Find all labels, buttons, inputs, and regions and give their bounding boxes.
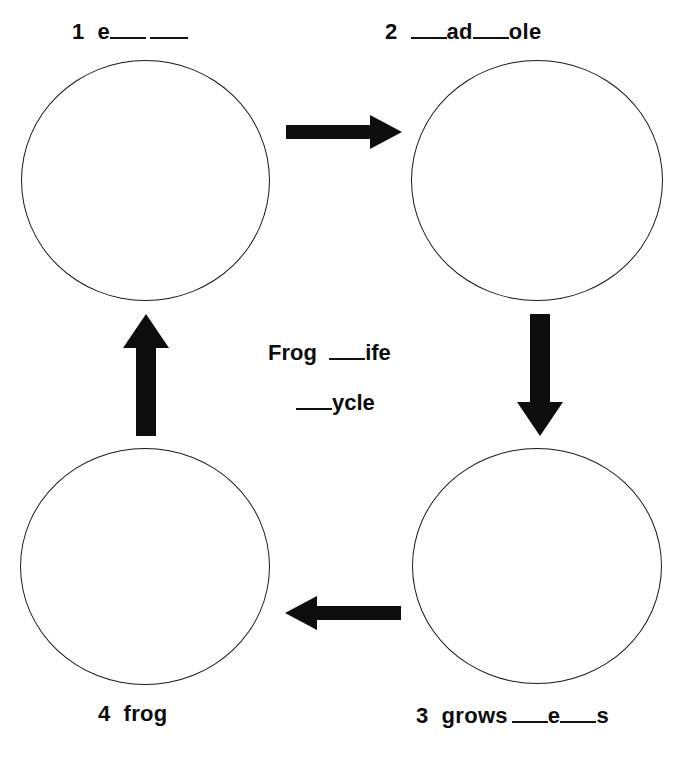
stage-1-drawing-circle[interactable] xyxy=(21,60,270,301)
stage-1-blank-2[interactable] xyxy=(150,19,188,39)
stage-1-number: 1 xyxy=(72,19,85,44)
stage-3-middle-text: e xyxy=(548,703,561,728)
stage-3-word: grows xyxy=(442,703,508,728)
stage-2-label: 2adole xyxy=(385,19,542,43)
stage-3-blank-1[interactable] xyxy=(512,703,548,723)
stage-2-blank-1[interactable] xyxy=(411,19,447,39)
stage-2-drawing-circle[interactable] xyxy=(411,60,663,301)
stage-3-blank-2[interactable] xyxy=(560,703,596,723)
stage-1-blank-1[interactable] xyxy=(110,19,146,39)
arrow-right-icon xyxy=(286,112,402,152)
center-suffix-ycle: ycle xyxy=(332,390,375,415)
center-blank-life[interactable] xyxy=(329,340,365,360)
stage-1-prefix-text: e xyxy=(98,19,111,44)
arrow-left-icon xyxy=(285,593,401,633)
stage-4-word: frog xyxy=(124,701,168,726)
center-title-line-1: Frog ife xyxy=(268,340,428,364)
center-blank-cycle[interactable] xyxy=(296,390,332,410)
stage-3-drawing-circle[interactable] xyxy=(412,448,662,684)
center-title-line-2: ycle xyxy=(296,390,375,414)
frog-life-cycle-worksheet: 1e 2adole 4frog 3growses Frog ife ycle xyxy=(0,0,677,762)
center-suffix-ife: ife xyxy=(365,340,391,365)
arrow-down-icon xyxy=(512,314,568,436)
stage-4-number: 4 xyxy=(98,701,111,726)
stage-2-number: 2 xyxy=(385,19,398,44)
stage-3-suffix-text: s xyxy=(596,703,609,728)
center-word-frog: Frog xyxy=(268,340,317,365)
stage-4-label: 4frog xyxy=(98,703,168,725)
arrow-up-icon xyxy=(118,314,174,436)
stage-4-drawing-circle[interactable] xyxy=(20,448,270,685)
stage-2-middle-text: ad xyxy=(447,19,473,44)
stage-2-blank-2[interactable] xyxy=(473,19,509,39)
stage-3-label: 3growses xyxy=(416,703,609,727)
stage-2-suffix-text: ole xyxy=(509,19,542,44)
stage-1-label: 1e xyxy=(72,19,188,43)
stage-3-number: 3 xyxy=(416,703,429,728)
